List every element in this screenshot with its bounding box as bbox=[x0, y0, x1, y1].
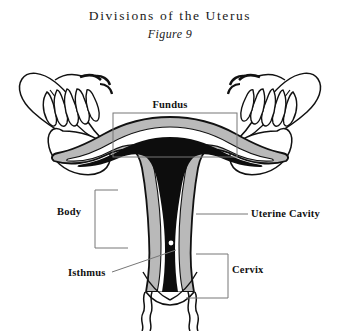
label-fundus: Fundus bbox=[0, 99, 340, 110]
uterus-illustration bbox=[0, 0, 340, 331]
internal-os-marker bbox=[169, 241, 174, 246]
label-body: Body bbox=[57, 206, 81, 217]
label-uterine-cavity: Uterine Cavity bbox=[251, 208, 320, 219]
uterus-figure: Divisions of the Uterus Figure 9 bbox=[0, 0, 340, 331]
body-bracket bbox=[95, 190, 128, 248]
label-isthmus: Isthmus bbox=[68, 267, 106, 278]
label-cervix: Cervix bbox=[232, 264, 264, 275]
